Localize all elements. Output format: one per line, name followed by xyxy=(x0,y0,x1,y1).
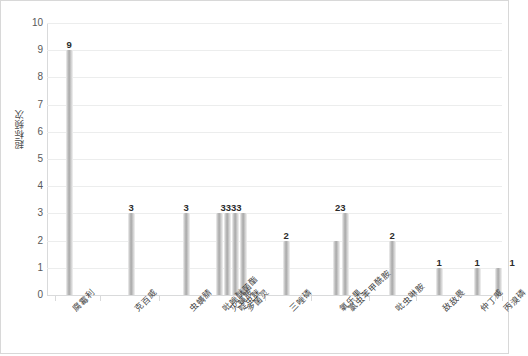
bar-value-label: 9 xyxy=(67,39,72,50)
bar-value-label: 1 xyxy=(437,257,442,268)
bar-rect xyxy=(224,213,231,295)
gridline xyxy=(47,241,502,242)
bar xyxy=(333,23,340,295)
gridline xyxy=(47,132,502,133)
y-axis-tick-label: 2 xyxy=(7,235,43,246)
bar xyxy=(389,23,396,295)
gridline xyxy=(47,105,502,106)
bar xyxy=(232,23,239,295)
bar-value-label: 2 xyxy=(284,230,289,241)
y-axis-tick-label: 3 xyxy=(7,207,43,218)
y-axis-tick-label: 10 xyxy=(7,17,43,28)
bar-value-label: 1 xyxy=(510,257,515,268)
bar-rect xyxy=(333,241,340,295)
bar-value-label: 2 xyxy=(390,230,395,241)
y-axis-tick-label: 8 xyxy=(7,71,43,82)
x-axis-labels: 腐霉利克百威虫螨腈吡唑醚菌酯灭蝇胺啶虫脒多菌灵三唑磷氧乐果氯虫苯甲酰胺吡虫啉胺敌… xyxy=(47,301,502,355)
bar-rect xyxy=(436,268,443,295)
gridline xyxy=(47,23,502,24)
y-axis-tick-label: 0 xyxy=(7,289,43,300)
gridline xyxy=(47,268,502,269)
gridline xyxy=(47,77,502,78)
bar-value-label: 1 xyxy=(475,257,480,268)
bar-rect xyxy=(216,213,223,295)
bar-rect xyxy=(342,213,349,295)
bar-rect xyxy=(474,268,481,295)
gridline xyxy=(47,159,502,160)
bar xyxy=(240,23,247,295)
bar xyxy=(66,23,73,295)
y-axis-tick-label: 7 xyxy=(7,99,43,110)
bar-rect xyxy=(128,213,135,295)
bar xyxy=(283,23,290,295)
y-axis-tick-label: 9 xyxy=(7,44,43,55)
y-axis-tick-labels: 109876543210 xyxy=(1,23,43,295)
bar xyxy=(474,23,481,295)
bar-rect xyxy=(232,213,239,295)
bar-value-label: 3 xyxy=(129,202,134,213)
bar xyxy=(342,23,349,295)
y-axis-tick-label: 6 xyxy=(7,126,43,137)
bar xyxy=(436,23,443,295)
gridline xyxy=(47,213,502,214)
bar xyxy=(216,23,223,295)
gridline xyxy=(47,186,502,187)
bar xyxy=(495,23,502,295)
bar-rect xyxy=(283,241,290,295)
bar-rect xyxy=(183,213,190,295)
y-axis-tick-label: 5 xyxy=(7,153,43,164)
bar-value-label: 3333 xyxy=(221,202,242,213)
gridline xyxy=(47,50,502,51)
x-axis-label: 丙溴磷 xyxy=(500,285,528,313)
bar-rect xyxy=(66,50,73,295)
plot-area: 93333332232111 xyxy=(47,23,502,295)
bar-value-label: 3 xyxy=(184,202,189,213)
y-axis-tick-label: 1 xyxy=(7,262,43,273)
bar-value-label: 23 xyxy=(335,202,346,213)
bar-chart: 超标频次 109876543210 93333332232111 腐霉利克百威虫… xyxy=(0,0,509,354)
y-axis-tick-label: 4 xyxy=(7,180,43,191)
bar-rect xyxy=(389,241,396,295)
bar xyxy=(183,23,190,295)
bar xyxy=(128,23,135,295)
bar xyxy=(224,23,231,295)
